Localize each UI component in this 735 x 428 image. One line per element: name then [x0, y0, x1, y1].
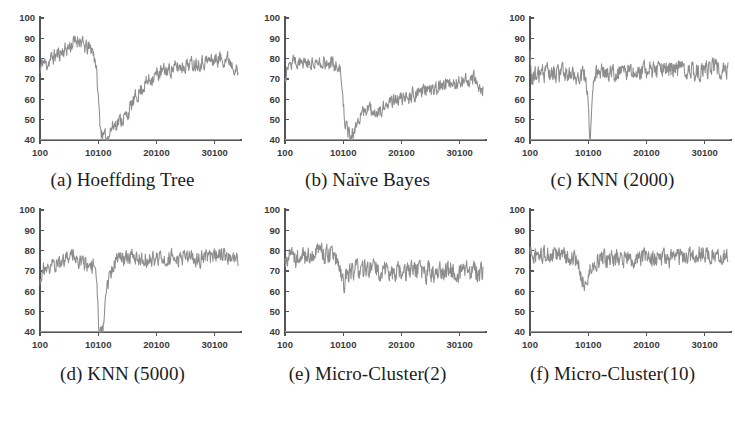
subplot-caption-c: (c) KNN (2000)	[490, 168, 735, 192]
x-tick-label: 30100	[201, 147, 227, 158]
series-line	[285, 55, 483, 140]
subplot-caption-d: (d) KNN (5000)	[0, 362, 245, 386]
subplot-caption-f: (f) Micro-Cluster(10)	[490, 362, 735, 386]
plot-area-c: 405060708090100100101002010030100	[490, 0, 735, 168]
x-tick-label: 10100	[575, 339, 601, 350]
x-tick-label: 100	[522, 339, 538, 350]
chart-svg-a: 405060708090100100101002010030100	[0, 0, 245, 168]
series-line	[40, 248, 238, 332]
x-tick-label: 30100	[446, 147, 472, 158]
subplot-caption-e: (e) Micro-Cluster(2)	[245, 362, 490, 386]
figure-row-bottom: 405060708090100100101002010030100 (d) KN…	[0, 192, 735, 386]
x-tick-label: 20100	[388, 147, 414, 158]
y-tick-label: 40	[514, 326, 525, 337]
y-tick-label: 70	[269, 73, 280, 84]
x-tick-label: 100	[32, 339, 48, 350]
y-tick-label: 70	[514, 73, 525, 84]
y-tick-label: 60	[269, 286, 280, 297]
subplot-caption-b: (b) Naïve Bayes	[245, 168, 490, 192]
x-tick-label: 10100	[330, 339, 356, 350]
y-tick-label: 90	[24, 225, 35, 236]
y-tick-label: 60	[514, 286, 525, 297]
y-tick-label: 90	[514, 225, 525, 236]
x-tick-label: 20100	[143, 147, 169, 158]
subplot-panel-b: 405060708090100100101002010030100 (b) Na…	[245, 0, 490, 192]
series-line	[285, 243, 483, 293]
x-tick-label: 30100	[201, 339, 227, 350]
subplot-panel-f: 405060708090100100101002010030100 (f) Mi…	[490, 192, 735, 386]
y-tick-label: 40	[24, 134, 35, 145]
y-tick-label: 50	[514, 306, 525, 317]
chart-svg-f: 405060708090100100101002010030100	[490, 192, 735, 362]
x-tick-label: 100	[32, 147, 48, 158]
y-tick-label: 50	[514, 114, 525, 125]
y-tick-label: 80	[514, 53, 525, 64]
x-tick-label: 100	[522, 147, 538, 158]
y-tick-label: 80	[24, 53, 35, 64]
subplot-panel-d: 405060708090100100101002010030100 (d) KN…	[0, 192, 245, 386]
y-tick-label: 70	[514, 265, 525, 276]
x-tick-label: 10100	[85, 339, 111, 350]
plot-area-f: 405060708090100100101002010030100	[490, 192, 735, 362]
y-tick-label: 50	[269, 114, 280, 125]
y-tick-label: 100	[509, 204, 525, 215]
subplot-caption-a: (a) Hoeffding Tree	[0, 168, 245, 192]
y-tick-label: 70	[269, 265, 280, 276]
y-tick-label: 60	[269, 94, 280, 105]
x-tick-label: 10100	[575, 147, 601, 158]
chart-svg-c: 405060708090100100101002010030100	[490, 0, 735, 168]
y-tick-label: 90	[269, 225, 280, 236]
figure-row-top: 405060708090100100101002010030100 (a) Ho…	[0, 0, 735, 192]
y-tick-label: 60	[24, 286, 35, 297]
x-tick-label: 30100	[446, 339, 472, 350]
y-tick-label: 70	[24, 73, 35, 84]
x-tick-label: 20100	[633, 147, 659, 158]
y-tick-label: 90	[514, 33, 525, 44]
y-tick-label: 100	[19, 204, 35, 215]
x-tick-label: 10100	[85, 147, 111, 158]
y-tick-label: 80	[269, 245, 280, 256]
plot-area-a: 405060708090100100101002010030100	[0, 0, 245, 168]
y-tick-label: 40	[24, 326, 35, 337]
series-line	[530, 51, 728, 140]
x-tick-label: 10100	[330, 147, 356, 158]
x-tick-label: 30100	[691, 339, 717, 350]
subplot-panel-e: 405060708090100100101002010030100 (e) Mi…	[245, 192, 490, 386]
series-line	[530, 245, 728, 290]
y-tick-label: 70	[24, 265, 35, 276]
y-tick-label: 60	[514, 94, 525, 105]
x-tick-label: 100	[277, 147, 293, 158]
chart-svg-b: 405060708090100100101002010030100	[245, 0, 490, 168]
subplot-panel-a: 405060708090100100101002010030100 (a) Ho…	[0, 0, 245, 192]
y-tick-label: 80	[269, 53, 280, 64]
x-tick-label: 20100	[143, 339, 169, 350]
y-tick-label: 40	[269, 326, 280, 337]
y-tick-label: 100	[264, 204, 280, 215]
plot-area-e: 405060708090100100101002010030100	[245, 192, 490, 362]
y-tick-label: 80	[24, 245, 35, 256]
figure-grid: 405060708090100100101002010030100 (a) Ho…	[0, 0, 735, 428]
y-tick-label: 50	[269, 306, 280, 317]
y-tick-label: 40	[269, 134, 280, 145]
y-tick-label: 80	[514, 245, 525, 256]
y-tick-label: 90	[269, 33, 280, 44]
plot-area-d: 405060708090100100101002010030100	[0, 192, 245, 362]
y-tick-label: 60	[24, 94, 35, 105]
y-tick-label: 100	[19, 12, 35, 23]
y-tick-label: 40	[514, 134, 525, 145]
y-tick-label: 50	[24, 306, 35, 317]
x-tick-label: 20100	[633, 339, 659, 350]
series-line	[40, 36, 238, 140]
x-tick-label: 20100	[388, 339, 414, 350]
y-tick-label: 50	[24, 114, 35, 125]
chart-svg-e: 405060708090100100101002010030100	[245, 192, 490, 362]
plot-area-b: 405060708090100100101002010030100	[245, 0, 490, 168]
subplot-panel-c: 405060708090100100101002010030100 (c) KN…	[490, 0, 735, 192]
chart-svg-d: 405060708090100100101002010030100	[0, 192, 245, 362]
x-tick-label: 30100	[691, 147, 717, 158]
x-tick-label: 100	[277, 339, 293, 350]
y-tick-label: 90	[24, 33, 35, 44]
y-tick-label: 100	[264, 12, 280, 23]
y-tick-label: 100	[509, 12, 525, 23]
